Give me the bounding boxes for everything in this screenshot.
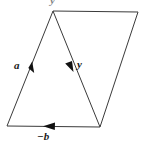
arrowhead-y-icon xyxy=(65,61,73,72)
vector-label-minus-b: −b xyxy=(37,131,49,142)
vector-diagram-canvas xyxy=(0,0,143,150)
top-clipped-label: y xyxy=(50,0,55,6)
vector-diagram-figure: y a y −b xyxy=(0,0,143,150)
vector-label-y: y xyxy=(77,59,82,70)
arrowhead-minus-b-icon xyxy=(43,123,55,130)
vector-label-a: a xyxy=(14,60,20,71)
